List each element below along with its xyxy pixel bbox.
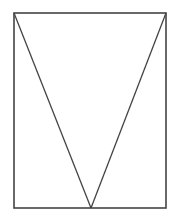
rectangle-frame <box>14 13 166 208</box>
inverted-triangle-in-rectangle-diagram <box>0 0 180 223</box>
triangle-right-edge <box>91 13 166 208</box>
triangle-left-edge <box>14 13 91 208</box>
